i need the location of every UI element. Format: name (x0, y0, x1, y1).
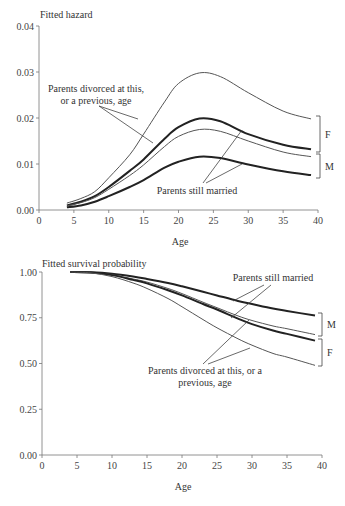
survival-bracket-m-label: M (327, 319, 336, 330)
survival-arrow-married-m (233, 285, 264, 301)
survival-chart: Fitted survival probability 0.000.250.50… (20, 258, 337, 492)
x-tick-label: 20 (177, 460, 187, 471)
x-tick-label: 40 (317, 460, 327, 471)
survival-y-ticks: 0.000.250.500.751.00 (20, 267, 43, 461)
y-tick-label: 0.00 (20, 450, 38, 461)
hazard-arrow-divorced-f (99, 106, 138, 119)
survival-annotation-married: Parents still married (233, 272, 314, 283)
hazard-bracket-f (316, 116, 320, 152)
x-tick-label: 30 (247, 460, 257, 471)
x-tick-label: 25 (212, 460, 222, 471)
x-tick-label: 35 (282, 460, 292, 471)
hazard-chart: Fitted hazard 0.000.010.020.030.04 05101… (17, 9, 335, 247)
x-tick-label: 15 (139, 215, 149, 226)
y-tick-label: 0.03 (17, 67, 35, 78)
x-tick-label: 0 (37, 215, 42, 226)
survival-x-ticks: 0510152025303540 (40, 455, 328, 471)
survival-bracket-f-label: F (327, 347, 333, 358)
y-tick-label: 0.00 (17, 205, 35, 216)
series-line-3 (67, 156, 311, 207)
y-tick-label: 0.50 (20, 358, 38, 369)
hazard-y-ticks: 0.000.010.020.030.04 (17, 21, 40, 216)
survival-x-label: Age (175, 481, 192, 492)
y-tick-label: 1.00 (20, 267, 38, 278)
survival-series (70, 272, 315, 365)
x-tick-label: 0 (40, 460, 45, 471)
figure: Fitted hazard 0.000.010.020.030.04 05101… (0, 0, 345, 506)
survival-arrow-divorced-f (208, 348, 250, 364)
hazard-x-ticks: 0510152025303540 (37, 210, 324, 226)
y-tick-label: 0.01 (17, 159, 35, 170)
survival-bracket-f (318, 339, 322, 366)
y-tick-label: 0.75 (20, 312, 38, 323)
x-tick-label: 25 (208, 215, 218, 226)
survival-chart-title: Fitted survival probability (42, 258, 146, 269)
hazard-annotation-married: Parents still married (157, 185, 238, 196)
y-tick-label: 0.02 (17, 113, 35, 124)
x-tick-label: 35 (278, 215, 288, 226)
hazard-x-label: Age (172, 236, 189, 247)
x-tick-label: 40 (313, 215, 323, 226)
x-tick-label: 10 (107, 460, 117, 471)
hazard-annotation-divorced-line2: or a previous, age (60, 95, 132, 106)
x-tick-label: 5 (75, 460, 80, 471)
y-tick-label: 0.25 (20, 404, 38, 415)
x-tick-label: 10 (104, 215, 114, 226)
survival-annotation-divorced-line2: previous, age (178, 377, 232, 388)
survival-bracket-m (318, 313, 322, 336)
hazard-arrow-married-m (206, 164, 242, 183)
hazard-bracket-f-label: F (325, 129, 331, 140)
x-tick-label: 15 (142, 460, 152, 471)
x-tick-label: 20 (174, 215, 184, 226)
series-line-3 (70, 272, 315, 365)
x-tick-label: 5 (71, 215, 76, 226)
hazard-bracket-m (316, 154, 320, 178)
survival-annotation-divorced-line1: Parents divorced at this, or a (148, 365, 262, 376)
hazard-annotation-divorced-line1: Parents divorced at this, (48, 83, 144, 94)
hazard-arrow-divorced-m (99, 106, 153, 143)
y-tick-label: 0.04 (17, 21, 35, 32)
x-tick-label: 30 (243, 215, 253, 226)
hazard-chart-title: Fitted hazard (40, 9, 92, 20)
hazard-bracket-m-label: M (325, 161, 334, 172)
